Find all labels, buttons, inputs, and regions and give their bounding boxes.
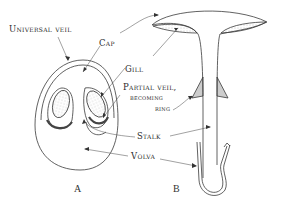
figure-label-a: A (74, 183, 81, 194)
label-partial-veil-line1: Partial veil, (123, 83, 177, 91)
label-cap: Cap (99, 39, 115, 47)
figure-label-b: B (173, 183, 180, 194)
label-universal-veil: Universal veil (9, 25, 71, 33)
label-gill: Gill (125, 65, 143, 73)
mature-mushroom-figure (152, 11, 267, 195)
mushroom-diagram: Universal veil Cap Gill Partial veil, be… (0, 0, 282, 211)
label-partial-veil-line2: becoming (130, 94, 163, 102)
label-partial-veil-line3: ring (155, 105, 170, 113)
label-stalk: Stalk (137, 132, 161, 140)
label-volva: Volva (131, 152, 155, 160)
